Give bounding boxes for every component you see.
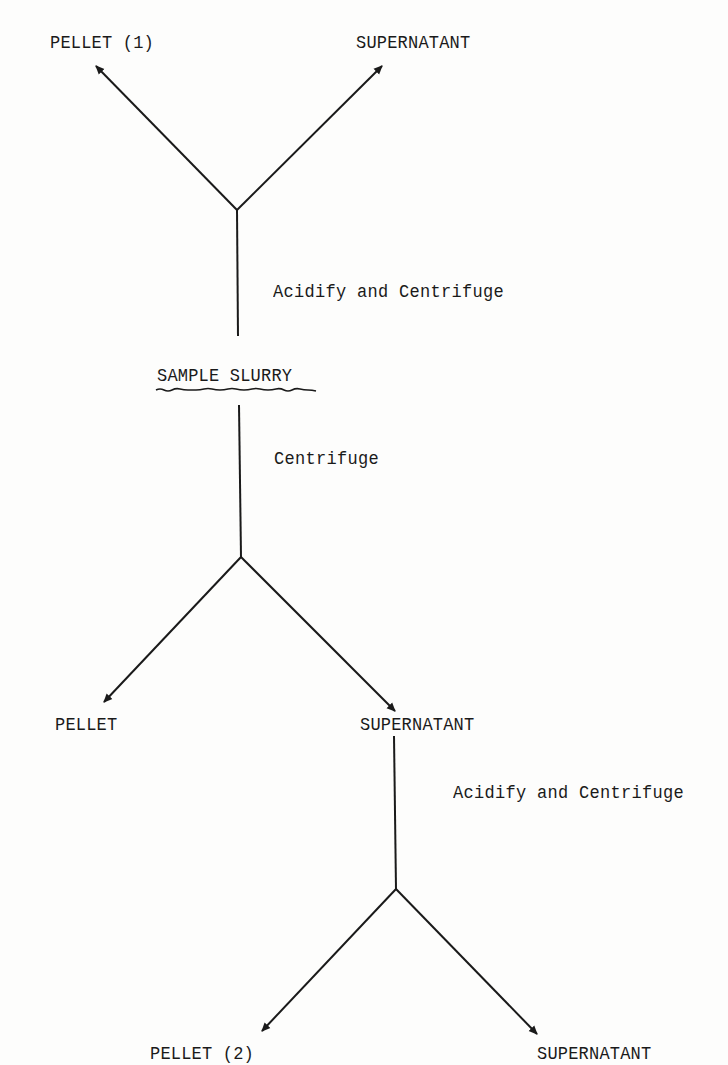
- node-pellet-mid: PELLET: [55, 716, 117, 735]
- arrow-to-supernatant-top: [237, 66, 382, 210]
- step-label-top: Acidify and Centrifuge: [273, 283, 504, 302]
- step-label-middle: Centrifuge: [274, 450, 379, 469]
- middle-stem-line: [239, 405, 241, 557]
- node-supernatant-mid: SUPERNATANT: [360, 716, 474, 735]
- arrow-to-pellet-2: [262, 889, 396, 1031]
- sample-slurry-wavy-underline: [156, 389, 316, 392]
- step-label-bottom: Acidify and Centrifuge: [453, 784, 684, 803]
- arrow-to-pellet-mid: [104, 557, 241, 702]
- node-supernatant-bottom: SUPERNATANT: [537, 1045, 651, 1064]
- node-pellet-1: PELLET (1): [50, 34, 154, 53]
- node-supernatant-top: SUPERNATANT: [356, 34, 470, 53]
- node-sample-slurry: SAMPLE SLURRY: [157, 367, 292, 386]
- arrow-to-pellet-1: [96, 66, 237, 210]
- node-pellet-2: PELLET (2): [150, 1045, 254, 1064]
- bottom-branch: [262, 736, 537, 1034]
- arrow-to-supernatant-mid: [241, 557, 395, 711]
- bottom-stem-line: [394, 736, 396, 889]
- flowchart-lines: [0, 0, 728, 1065]
- top-stem-line: [237, 210, 238, 336]
- arrow-to-supernatant-bottom: [396, 889, 537, 1034]
- flowchart-canvas: PELLET (1) SUPERNATANT Acidify and Centr…: [0, 0, 728, 1065]
